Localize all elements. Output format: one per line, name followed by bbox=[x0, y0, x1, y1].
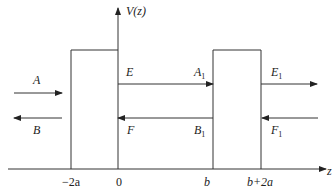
wave-label-e: E bbox=[125, 65, 134, 79]
tick-label-neg-2a: −2a bbox=[62, 175, 81, 189]
potential-barrier-diagram: z V(z) A B E A1 F B1 E1 F1 −2a 0 b b+2a bbox=[0, 0, 335, 193]
wave-label-f: F bbox=[126, 123, 135, 137]
barrier-2 bbox=[213, 50, 261, 169]
v-axis-label: V(z) bbox=[126, 4, 146, 18]
tick-label-b-plus-2a: b+2a bbox=[247, 175, 273, 189]
wave-label-f1: F1 bbox=[270, 123, 282, 139]
wave-label-b: B bbox=[33, 123, 41, 137]
z-axis-label: z bbox=[326, 164, 332, 178]
wave-label-b1: B1 bbox=[194, 123, 205, 139]
wave-label-e1: E1 bbox=[270, 65, 282, 81]
tick-label-b: b bbox=[204, 175, 210, 189]
wave-label-a1: A1 bbox=[193, 65, 205, 81]
barrier-1 bbox=[71, 50, 118, 169]
tick-label-0: 0 bbox=[116, 175, 122, 189]
wave-label-a: A bbox=[32, 73, 41, 87]
